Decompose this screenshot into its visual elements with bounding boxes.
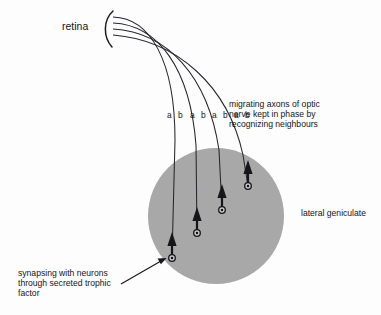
migrating-axons-annotation: migrating axons of optic nerve kept in p… [229, 99, 320, 129]
synaptic-terminal-core-2 [196, 232, 199, 235]
axon-marker-b: b [201, 110, 206, 120]
synaptic-terminal-core-1 [171, 257, 174, 260]
synapsing-annotation: synapsing with neurons through secreted … [18, 268, 111, 298]
axon-marker-b: b [223, 110, 228, 120]
axon-marker-b: b [245, 110, 250, 120]
figure-canvas: retina migrating axons of optic nerve ke… [0, 0, 381, 315]
synapsing-leader-line [121, 261, 161, 284]
axon-marker-a: a [167, 110, 172, 120]
axon-marker-a: a [234, 110, 239, 120]
retina-label: retina [62, 20, 88, 32]
axon-marker-a: a [190, 110, 195, 120]
retina-arc [105, 11, 113, 47]
axon-marker-a: a [212, 110, 217, 120]
synaptic-terminal-core-3 [221, 209, 224, 212]
lateral-geniculate-annotation: lateral geniculate [301, 208, 366, 218]
synaptic-terminal-core-4 [247, 185, 250, 188]
axon-marker-b: b [178, 110, 183, 120]
lateral-geniculate-disc [148, 148, 284, 284]
